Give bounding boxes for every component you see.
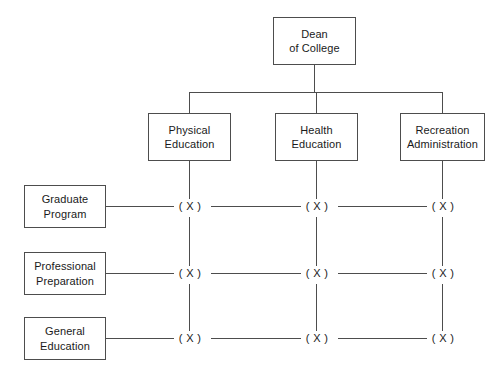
connector-row-general-education-seg-3 <box>338 338 427 339</box>
connector-drop-health-education <box>316 92 317 113</box>
cell-general-education-physical-education[interactable]: ( X ) <box>177 332 203 344</box>
cell-general-education-health-education[interactable]: ( X ) <box>304 332 330 344</box>
node-professional-preparation-label: Professional Preparation <box>32 259 98 287</box>
cell-graduate-program-physical-education[interactable]: ( X ) <box>177 200 203 212</box>
cell-graduate-program-health-education[interactable]: ( X ) <box>304 200 330 212</box>
cell-professional-preparation-recreation-administration[interactable]: ( X ) <box>430 267 456 279</box>
node-graduate-program[interactable]: Graduate Program <box>24 185 106 228</box>
connector-row-graduate-program-seg-2 <box>211 206 301 207</box>
node-dean-of-college[interactable]: Dean of College <box>273 17 356 65</box>
node-dean-of-college-label: Dean of College <box>287 27 342 55</box>
connector-col-recreation-administration-seg-1 <box>442 161 443 199</box>
matrix-organization-chart: Dean of College Physical Education Healt… <box>0 0 497 381</box>
cell-professional-preparation-health-education[interactable]: ( X ) <box>304 267 330 279</box>
node-professional-preparation[interactable]: Professional Preparation <box>24 252 106 295</box>
node-physical-education[interactable]: Physical Education <box>148 113 231 161</box>
node-general-education-label: General Education <box>38 324 92 352</box>
connector-row-graduate-program-seg-1 <box>106 206 174 207</box>
connector-row-professional-preparation-seg-1 <box>106 273 174 274</box>
node-general-education[interactable]: General Education <box>24 317 106 360</box>
node-health-education-label: Health Education <box>290 123 344 151</box>
cell-general-education-recreation-administration[interactable]: ( X ) <box>430 332 456 344</box>
connector-row-general-education-seg-2 <box>211 338 301 339</box>
node-recreation-administration-label: Recreation Administration <box>405 123 480 151</box>
connector-col-physical-education-seg-3 <box>189 284 190 331</box>
connector-col-health-education-seg-2 <box>316 217 317 266</box>
connector-col-physical-education-seg-2 <box>189 217 190 266</box>
connector-drop-physical-education <box>189 92 190 113</box>
connector-row-graduate-program-seg-3 <box>338 206 427 207</box>
connector-drop-recreation-administration <box>442 92 443 113</box>
node-recreation-administration[interactable]: Recreation Administration <box>400 113 485 161</box>
cell-professional-preparation-physical-education[interactable]: ( X ) <box>177 267 203 279</box>
connector-col-recreation-administration-seg-2 <box>442 217 443 266</box>
connector-row-professional-preparation-seg-3 <box>338 273 427 274</box>
cell-graduate-program-recreation-administration[interactable]: ( X ) <box>430 200 456 212</box>
node-graduate-program-label: Graduate Program <box>40 192 91 220</box>
node-physical-education-label: Physical Education <box>163 123 217 151</box>
connector-col-physical-education-seg-1 <box>189 161 190 199</box>
node-health-education[interactable]: Health Education <box>275 113 358 161</box>
connector-row-general-education-seg-1 <box>106 338 174 339</box>
connector-dean-drop <box>314 65 315 92</box>
connector-col-recreation-administration-seg-3 <box>442 284 443 331</box>
connector-col-health-education-seg-3 <box>316 284 317 331</box>
connector-col-health-education-seg-1 <box>316 161 317 199</box>
connector-row-professional-preparation-seg-2 <box>211 273 301 274</box>
